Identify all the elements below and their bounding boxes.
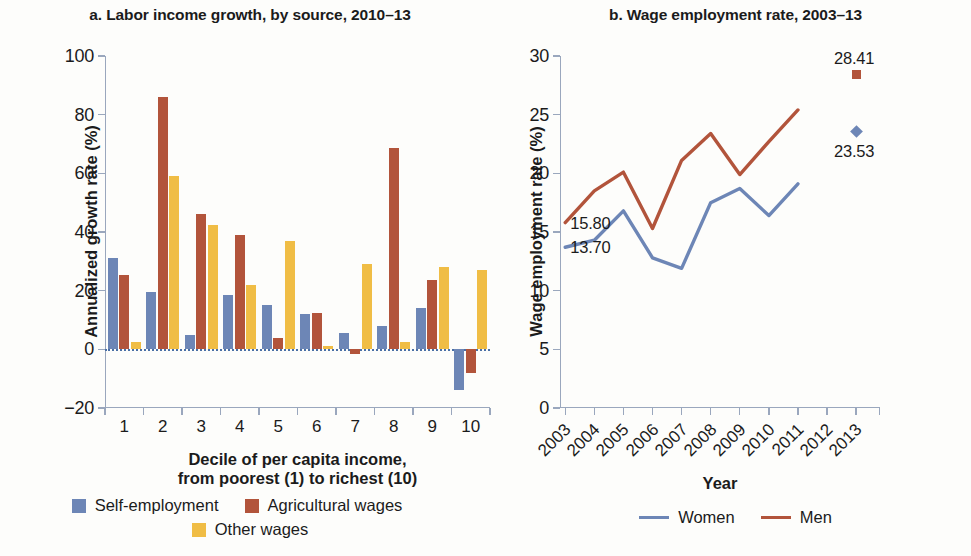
bar-agricultural-wages-decile-1 [119, 275, 129, 350]
panel-a-x-tick [181, 408, 182, 415]
bar-self-employment-decile-6 [300, 314, 310, 349]
panel-a-x-axis-title: Decile of per capita income, from poores… [105, 450, 490, 489]
panel-b-x-tick [623, 408, 624, 415]
bar-self-employment-decile-10 [454, 349, 464, 390]
bar-agricultural-wages-decile-2 [158, 97, 168, 349]
panel-a-y-axis-line [105, 56, 106, 408]
panel-b-y-tick [553, 407, 560, 408]
bar-self-employment-decile-4 [223, 295, 233, 349]
bar-self-employment-decile-7 [339, 333, 349, 349]
panel-b-x-tick [826, 408, 827, 415]
panel-b-x-tick [681, 408, 682, 415]
panel-a-x-tick [451, 408, 452, 415]
legend-item-men[interactable]: Men [761, 508, 832, 527]
panel-a-y-tick [98, 349, 105, 350]
bar-agricultural-wages-decile-8 [389, 148, 399, 349]
panel-b-y-tick-label: 25 [530, 104, 549, 125]
panel-a-x-tick [297, 408, 298, 415]
bar-other-wages-decile-4 [246, 285, 256, 350]
panel-b-y-tick [553, 290, 560, 291]
panel-b-x-tick [739, 408, 740, 415]
bar-other-wages-decile-8 [400, 342, 410, 349]
legend-label-self-employment: Self-employment [95, 496, 219, 515]
panel-b-x-axis-title: Year [560, 474, 880, 493]
panel-a-y-tick [98, 55, 105, 56]
panel-b-x-tick [768, 408, 769, 415]
panel-b-plot-area: 051015202530 200320042005200620072008200… [560, 56, 880, 408]
panel-a-x-tick [104, 408, 105, 415]
panel-b-y-tick [553, 173, 560, 174]
panel-a-y-tick-label: 80 [75, 104, 94, 125]
legend-item-other-wages[interactable]: Other wages [192, 520, 309, 539]
bar-self-employment-decile-3 [185, 335, 195, 350]
panel-b-x-tick-label: 2013 [825, 420, 866, 461]
panel-a-x-tick [412, 408, 413, 415]
bar-self-employment-decile-9 [416, 308, 426, 349]
panel-a-x-axis-title-line2: from poorest (1) to richest (10) [105, 469, 490, 488]
bar-other-wages-decile-7 [362, 264, 372, 349]
panel-b-x-tick [710, 408, 711, 415]
legend-item-self-employment[interactable]: Self-employment [72, 496, 219, 515]
panel-a-x-tick-label: 9 [428, 417, 437, 437]
endpoint-value-label-men: 28.41 [834, 49, 874, 68]
bar-self-employment-decile-8 [377, 326, 387, 349]
panel-a-x-tick-label: 4 [235, 417, 244, 437]
panel-b-y-tick-label: 15 [530, 222, 549, 243]
bar-agricultural-wages-decile-6 [312, 313, 322, 350]
panel-a-x-tick [489, 408, 490, 415]
panel-b-y-tick [553, 55, 560, 56]
panel-a-labor-income-growth: a. Labor income growth, by source, 2010–… [0, 0, 500, 556]
panel-b-y-tick [553, 231, 560, 232]
panel-a-x-tick-label: 3 [197, 417, 206, 437]
panel-a-plot-area: −20020406080100 12345678910 [105, 56, 490, 408]
panel-a-y-tick [98, 114, 105, 115]
bar-agricultural-wages-decile-4 [235, 235, 245, 349]
legend-item-agricultural-wages[interactable]: Agricultural wages [245, 496, 403, 515]
panel-a-x-tick-label: 6 [312, 417, 321, 437]
panel-a-x-tick-label: 10 [461, 417, 480, 437]
panel-b-title: b. Wage employment rate, 2003–13 [500, 6, 971, 24]
legend-label-other-wages: Other wages [215, 520, 309, 539]
panel-a-y-tick [98, 173, 105, 174]
bar-other-wages-decile-6 [323, 346, 333, 349]
legend-swatch-agricultural-wages [245, 499, 259, 513]
panel-b-y-tick-label: 5 [539, 339, 549, 360]
bar-self-employment-decile-1 [108, 258, 118, 349]
panel-a-x-tick [258, 408, 259, 415]
bar-self-employment-decile-5 [262, 305, 272, 349]
bar-other-wages-decile-10 [477, 270, 487, 349]
panel-b-x-tick [879, 408, 880, 415]
panel-a-title: a. Labor income growth, by source, 2010–… [0, 6, 500, 24]
panel-a-x-tick-label: 8 [389, 417, 398, 437]
panel-b-y-tick [553, 114, 560, 115]
start-value-label-men: 15.80 [570, 214, 610, 233]
legend-swatch-self-employment [72, 499, 86, 513]
panel-a-zero-baseline [105, 349, 490, 351]
panel-a-y-tick-label: 0 [84, 339, 94, 360]
panel-b-wage-employment-rate: b. Wage employment rate, 2003–13 Wage em… [500, 0, 971, 556]
panel-b-y-tick [553, 349, 560, 350]
legend-label-agricultural-wages: Agricultural wages [268, 496, 403, 515]
bar-agricultural-wages-decile-10 [466, 349, 476, 372]
legend-label-men: Men [800, 508, 832, 527]
legend-item-women[interactable]: Women [639, 508, 735, 527]
panel-a-legend: Self-employment Agricultural wages Other… [0, 496, 500, 539]
panel-a-y-tick-label: 100 [65, 46, 94, 67]
bar-agricultural-wages-decile-5 [273, 338, 283, 350]
bar-other-wages-decile-3 [208, 225, 218, 350]
legend-swatch-other-wages [192, 523, 206, 537]
panel-b-x-tick [797, 408, 798, 415]
panel-b-x-tick [652, 408, 653, 415]
panel-b-x-tick [855, 408, 856, 415]
bar-other-wages-decile-2 [169, 176, 179, 349]
legend-line-swatch-men [761, 516, 791, 519]
panel-a-y-tick-label: 20 [75, 280, 94, 301]
panel-a-x-tick [374, 408, 375, 415]
panel-a-x-tick-label: 2 [158, 417, 167, 437]
data-point-marker-men-2013 [852, 70, 861, 79]
start-value-label-women: 13.70 [570, 238, 610, 257]
figure-container: a. Labor income growth, by source, 2010–… [0, 0, 971, 556]
panel-a-x-tick-label: 5 [274, 417, 283, 437]
legend-label-women: Women [678, 508, 735, 527]
panel-a-x-tick-label: 1 [120, 417, 129, 437]
